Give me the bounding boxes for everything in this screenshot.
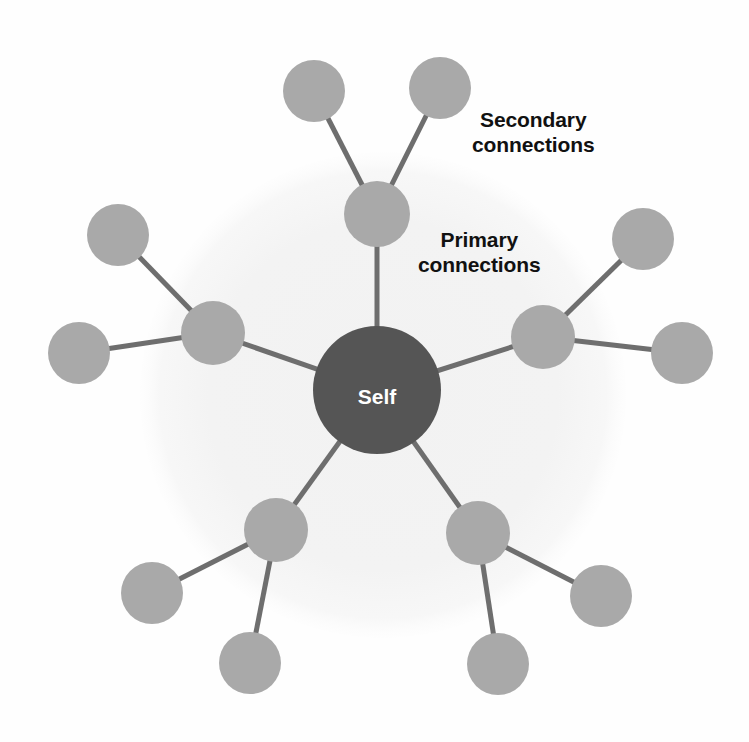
secondary-node-left-lower[interactable] <box>48 322 110 384</box>
primary-node-bottom-right[interactable] <box>446 501 510 565</box>
primary-node-bottom-left[interactable] <box>244 498 308 562</box>
network-graph-canvas: Self <box>0 0 749 742</box>
primary-connections-annotation: Primaryconnections <box>418 228 541 278</box>
secondary-node-bottom-right-lower[interactable] <box>467 633 529 695</box>
primary-node-right[interactable] <box>511 305 575 369</box>
self-node-label: Self <box>358 385 398 408</box>
secondary-node-right-lower[interactable] <box>651 322 713 384</box>
network-diagram: Self Secondaryconnections Primaryconnect… <box>0 0 749 742</box>
secondary-node-right-upper[interactable] <box>612 208 674 270</box>
primary-node-top[interactable] <box>344 181 410 247</box>
secondary-connections-annotation: Secondaryconnections <box>472 108 595 158</box>
secondary-node-bottom-left-lower[interactable] <box>219 632 281 694</box>
self-node-layer: Self <box>313 326 441 454</box>
secondary-node-left-upper[interactable] <box>87 204 149 266</box>
secondary-node-top-left[interactable] <box>283 60 345 122</box>
secondary-node-bottom-left-outer[interactable] <box>121 562 183 624</box>
secondary-node-bottom-right-outer[interactable] <box>570 565 632 627</box>
secondary-node-top-right[interactable] <box>409 57 471 119</box>
primary-node-left[interactable] <box>181 301 245 365</box>
